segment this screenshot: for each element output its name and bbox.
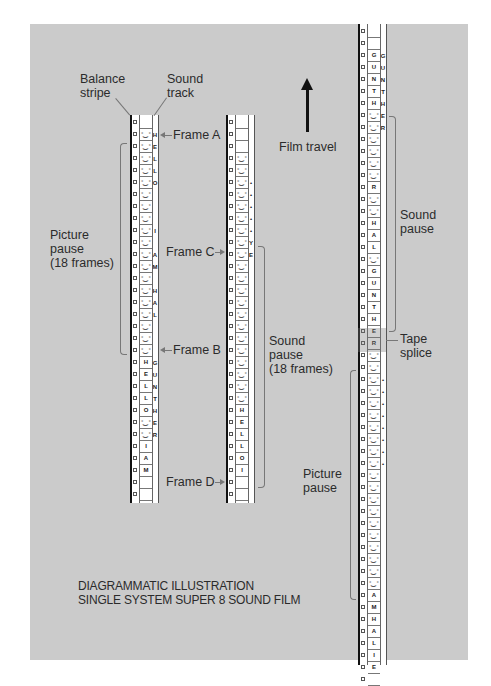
perforation bbox=[229, 396, 233, 400]
film-frame: N bbox=[368, 74, 380, 86]
film-frame: °‿° bbox=[236, 321, 248, 333]
frame-b-label: Frame B bbox=[173, 343, 221, 357]
perforation bbox=[229, 312, 233, 316]
face-icon: °‿° bbox=[141, 310, 151, 319]
film-frame: °‿° bbox=[368, 362, 380, 374]
face-icon: °‿° bbox=[369, 255, 379, 264]
perforation bbox=[361, 233, 365, 237]
face-icon: °‿° bbox=[141, 190, 151, 199]
speaking-face-icon: N bbox=[369, 75, 379, 84]
perforation bbox=[133, 396, 137, 400]
perforation bbox=[133, 252, 137, 256]
film-frame: H bbox=[140, 357, 152, 369]
film-frame: I bbox=[368, 650, 380, 662]
film-frame bbox=[236, 129, 248, 141]
perforation bbox=[229, 192, 233, 196]
balance-stripe bbox=[226, 115, 228, 503]
face-icon: °‿° bbox=[369, 579, 379, 588]
sound-track-mark: • bbox=[248, 216, 254, 222]
sound-track-mark: R bbox=[380, 125, 386, 131]
sound-pause-bracket-strip3 bbox=[389, 116, 396, 332]
picture-frames: °‿°°‿°°‿°°‿°°‿°°‿°°‿°°‿°°‿°°‿°°‿°°‿°°‿°°… bbox=[139, 115, 153, 503]
face-icon: °‿° bbox=[369, 519, 379, 528]
perforation bbox=[229, 432, 233, 436]
perforation bbox=[229, 156, 233, 160]
sound-pause-bracket bbox=[258, 246, 265, 488]
perforation bbox=[229, 360, 233, 364]
perforation bbox=[361, 401, 365, 405]
perforation bbox=[361, 53, 365, 57]
film-frame: °‿° bbox=[140, 261, 152, 273]
frame-d-arrow-icon bbox=[220, 479, 225, 485]
perforation bbox=[229, 492, 233, 496]
film-frame: °‿° bbox=[368, 494, 380, 506]
perforation bbox=[133, 372, 137, 376]
sound-track-mark: M bbox=[152, 264, 158, 270]
perforation bbox=[133, 276, 137, 280]
sound-track: HELLOIAMHALGUNTHER bbox=[152, 115, 158, 503]
perforation bbox=[361, 317, 365, 321]
tape-splice-label: Tape splice bbox=[400, 332, 432, 360]
perforation bbox=[229, 240, 233, 244]
face-icon: °‿° bbox=[237, 370, 247, 379]
speaking-face-icon: I bbox=[141, 442, 151, 451]
frame-c-arrow-icon bbox=[220, 249, 225, 255]
perforation bbox=[361, 461, 365, 465]
speaking-face-icon: A bbox=[369, 627, 379, 636]
film-frame bbox=[236, 141, 248, 153]
film-frame: °‿° bbox=[236, 177, 248, 189]
film-frame: H bbox=[236, 405, 248, 417]
speaking-face-icon: A bbox=[141, 454, 151, 463]
perforation bbox=[361, 437, 365, 441]
perforation bbox=[361, 497, 365, 501]
film-frame: °‿° bbox=[236, 237, 248, 249]
perforation bbox=[361, 185, 365, 189]
perforation bbox=[361, 509, 365, 513]
film-frame: °‿° bbox=[368, 254, 380, 266]
film-frame bbox=[140, 489, 152, 501]
perforation bbox=[361, 677, 365, 681]
film-frame: °‿° bbox=[368, 410, 380, 422]
film-frame: N bbox=[368, 290, 380, 302]
perforation bbox=[133, 324, 137, 328]
film-frame: °‿° bbox=[368, 398, 380, 410]
film-frame: °‿° bbox=[236, 393, 248, 405]
frame-b-pointer bbox=[164, 350, 172, 351]
perforation bbox=[361, 449, 365, 453]
film-frame: °‿° bbox=[236, 309, 248, 321]
perforation bbox=[229, 348, 233, 352]
speaking-face-icon: I bbox=[237, 466, 247, 475]
film-frame: G bbox=[368, 50, 380, 62]
perforation bbox=[133, 432, 137, 436]
perforation bbox=[133, 312, 137, 316]
perforation bbox=[361, 113, 365, 117]
film-frame bbox=[140, 117, 152, 129]
film-frame: O bbox=[140, 405, 152, 417]
frame-c-label: Frame C bbox=[166, 245, 215, 259]
caption-line-2: SINGLE SYSTEM SUPER 8 SOUND FILM bbox=[78, 594, 300, 608]
perforation bbox=[361, 221, 365, 225]
perforation bbox=[133, 240, 137, 244]
perforation bbox=[361, 425, 365, 429]
film-frame: °‿° bbox=[140, 177, 152, 189]
film-frame: A bbox=[368, 230, 380, 242]
film-frame: L bbox=[368, 242, 380, 254]
perforation bbox=[361, 485, 365, 489]
face-icon: °‿° bbox=[237, 298, 247, 307]
film-strip-1: °‿°°‿°°‿°°‿°°‿°°‿°°‿°°‿°°‿°°‿°°‿°°‿°°‿°°… bbox=[130, 115, 159, 503]
film-frame bbox=[236, 117, 248, 129]
sound-track-mark: E bbox=[380, 113, 386, 119]
perforation bbox=[229, 276, 233, 280]
face-icon: °‿° bbox=[369, 555, 379, 564]
speaking-face-icon: M bbox=[141, 466, 151, 475]
film-frame: U bbox=[368, 62, 380, 74]
film-frame: °‿° bbox=[140, 309, 152, 321]
film-frame: °‿° bbox=[368, 146, 380, 158]
speaking-face-icon: L bbox=[237, 430, 247, 439]
film-frame: G bbox=[368, 266, 380, 278]
film-frame: °‿° bbox=[140, 429, 152, 441]
film-frame: °‿° bbox=[140, 225, 152, 237]
film-frame: °‿° bbox=[368, 554, 380, 566]
perforation bbox=[229, 144, 233, 148]
film-frame: °‿° bbox=[368, 578, 380, 590]
